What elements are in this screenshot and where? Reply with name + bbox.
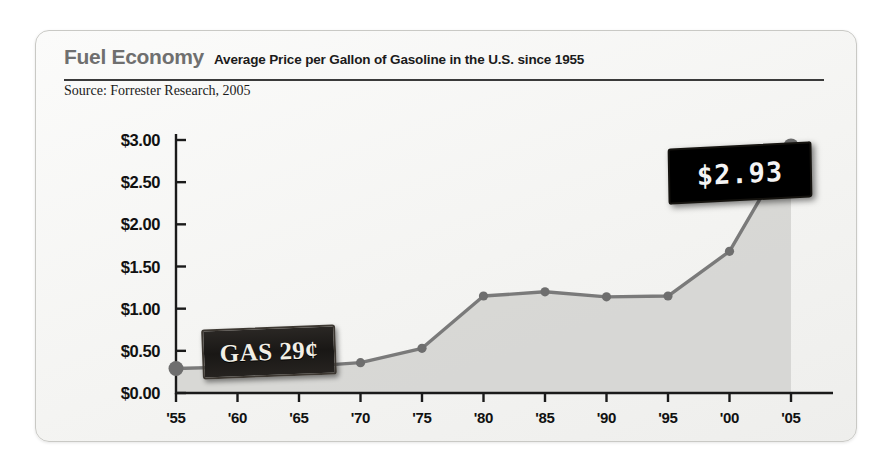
- x-axis-label: '90: [587, 409, 627, 426]
- data-point: [540, 287, 549, 296]
- x-axis-label: '80: [464, 409, 504, 426]
- x-axis-label: '95: [648, 409, 688, 426]
- data-point: [479, 291, 488, 300]
- y-axis-label: $1.50: [36, 257, 160, 276]
- data-point: [169, 361, 184, 376]
- x-axis-label: '55: [156, 409, 196, 426]
- vintage-gas-price-sign: GAS 29¢: [201, 324, 337, 379]
- x-axis-label: '05: [771, 409, 811, 426]
- data-point: [725, 247, 734, 256]
- vintage-gas-price-label: GAS 29¢: [219, 336, 319, 368]
- y-axis-label: $0.50: [36, 341, 160, 360]
- data-point: [602, 292, 611, 301]
- data-point: [663, 291, 672, 300]
- y-axis-label: $1.00: [36, 299, 160, 318]
- x-axis-label: '00: [710, 409, 750, 426]
- y-axis-label: $2.00: [36, 215, 160, 234]
- x-axis-label: '65: [279, 409, 319, 426]
- led-gas-price-sign: $2.93: [668, 141, 813, 205]
- data-point: [417, 344, 426, 353]
- x-axis-label: '85: [525, 409, 565, 426]
- led-gas-price-label: $2.93: [697, 155, 784, 191]
- x-axis-label: '70: [341, 409, 381, 426]
- chart-plot-area: $0.00$0.50$1.00$1.50$2.00$2.50$3.00'55'6…: [36, 31, 856, 441]
- y-axis-label: $3.00: [36, 131, 160, 150]
- y-axis-label: $0.00: [36, 384, 160, 403]
- y-axis-label: $2.50: [36, 173, 160, 192]
- chart-card: Fuel EconomyAverage Price per Gallon of …: [35, 30, 857, 442]
- x-axis-label: '60: [218, 409, 258, 426]
- data-point: [356, 358, 365, 367]
- line-chart-svg: [36, 31, 856, 441]
- x-axis-label: '75: [402, 409, 442, 426]
